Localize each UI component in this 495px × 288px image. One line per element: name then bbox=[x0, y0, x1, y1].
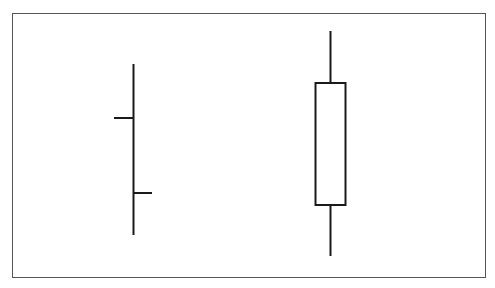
diagram-canvas bbox=[0, 0, 495, 288]
candle-body bbox=[316, 83, 346, 205]
frame bbox=[13, 14, 486, 278]
